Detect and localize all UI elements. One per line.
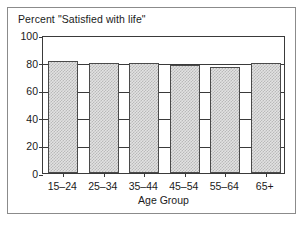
y-tick-label: 20 [4,140,38,152]
x-axis-label: Age Group [42,194,285,206]
y-tick-mark [39,147,43,148]
bar [48,61,78,173]
x-tick-mark [225,173,226,177]
bar [170,65,200,173]
x-tick-mark [144,173,145,177]
y-tick-mark [39,37,43,38]
y-tick-label: 80 [4,58,38,70]
x-tick-label: 15–24 [48,180,77,192]
bar [129,63,159,173]
plot-area [42,36,285,174]
y-axis-tick-labels: 020406080100 [0,36,38,174]
x-tick-mark [266,173,267,177]
x-tick-label: 55–64 [210,180,239,192]
gridline [43,64,284,65]
x-tick-label: 35–44 [129,180,158,192]
x-tick-label: 25–34 [88,180,117,192]
x-tick-label: 65+ [256,180,274,192]
chart-title: Percent "Satisfied with life" [18,13,146,25]
bar [210,67,240,173]
bar [89,63,119,173]
y-tick-mark [39,175,43,176]
y-tick-label: 60 [4,85,38,97]
bar [251,63,281,173]
x-tick-mark [63,173,64,177]
x-axis-tick-labels: 15–2425–3435–4445–5455–6465+ [42,180,285,194]
chart-figure: Percent "Satisfied with life" 0204060801… [0,0,304,229]
gridline [43,92,284,93]
gridline [43,119,284,120]
y-tick-mark [39,64,43,65]
x-tick-mark [185,173,186,177]
y-tick-label: 100 [4,30,38,42]
y-tick-label: 0 [4,168,38,180]
y-tick-mark [39,92,43,93]
x-tick-mark [104,173,105,177]
y-tick-label: 40 [4,113,38,125]
y-tick-mark [39,119,43,120]
x-tick-label: 45–54 [169,180,198,192]
gridline [43,147,284,148]
